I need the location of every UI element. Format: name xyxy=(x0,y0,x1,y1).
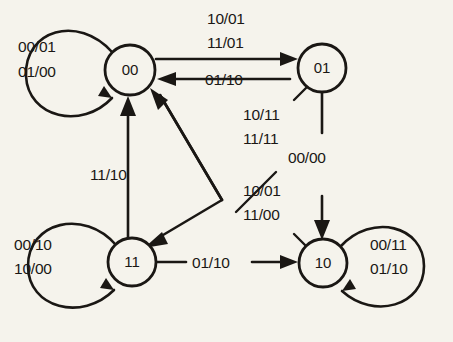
edge-label-group-11-to-00: 11/10 xyxy=(90,166,127,183)
edge-diagonal-to-11-segment xyxy=(158,200,222,238)
state-label-00: 00 xyxy=(122,61,139,78)
self-loop-00-arrowhead xyxy=(98,86,112,98)
edge-label-11-to-10-diag-line1: 10/01 xyxy=(243,182,281,199)
edge-label-00-self-line1: 00/01 xyxy=(18,38,56,55)
edge-label-01-to-00: 01/10 xyxy=(205,71,243,88)
state-node-00[interactable]: 00 xyxy=(105,45,155,95)
fsm-diagram: 00 01 11 10 00/01 01/00 10/01 11/01 01/1… xyxy=(0,0,453,342)
edge-label-11-self-line2: 10/00 xyxy=(14,260,52,277)
state-label-10: 10 xyxy=(315,254,332,271)
edge-label-group-01-to-10: 00/00 xyxy=(288,149,326,166)
edge-diagonal-arrowhead-to-00 xyxy=(150,88,168,110)
transition-00-11-diagonal-double xyxy=(144,88,222,248)
edge-label-00-to-01-line1: 10/01 xyxy=(207,10,245,27)
edge-01-to-11-stub-upper xyxy=(294,88,306,100)
edge-01-to-10-arrowhead xyxy=(314,220,330,240)
edge-11-to-10-arrowhead xyxy=(280,255,298,269)
state-node-11[interactable]: 11 xyxy=(108,238,156,286)
edge-label-01-to-11-line2: 11/11 xyxy=(243,130,279,147)
edge-label-10-self-line2: 01/10 xyxy=(370,260,408,277)
edge-label-group-00-self: 00/01 01/00 xyxy=(18,38,56,80)
state-diagram-canvas: 00 01 11 10 00/01 01/00 10/01 11/01 01/1… xyxy=(0,0,453,342)
edge-label-10-self-line1: 00/11 xyxy=(370,236,407,253)
edge-label-group-00-to-01: 10/01 11/01 xyxy=(207,10,245,51)
edge-label-11-to-10: 01/10 xyxy=(192,254,230,271)
edge-00-to-01-arrowhead xyxy=(280,52,298,66)
edge-11-to-00-arrowhead xyxy=(120,96,136,116)
self-loop-11-arrowhead xyxy=(100,278,114,290)
edge-label-group-11-self: 00/10 10/00 xyxy=(14,236,52,277)
edge-label-01-to-11-line1: 10/11 xyxy=(243,106,280,123)
state-label-01: 01 xyxy=(314,59,331,76)
state-label-11: 11 xyxy=(124,253,140,270)
edge-label-00-to-01-line2: 11/01 xyxy=(207,34,244,51)
state-node-01[interactable]: 01 xyxy=(298,44,346,92)
edge-label-11-to-00: 11/10 xyxy=(90,166,127,183)
transition-00-to-01 xyxy=(156,52,298,66)
edge-label-group-11-to-10-diagonal: 10/01 11/00 xyxy=(243,182,281,223)
edge-01-to-00-arrowhead xyxy=(157,72,176,86)
edge-label-group-01-to-00: 01/10 xyxy=(205,71,243,88)
edge-label-01-to-10: 00/00 xyxy=(288,149,326,166)
edge-label-group-11-to-10: 01/10 xyxy=(192,254,230,271)
edge-diagonal-lower-segment xyxy=(160,95,222,200)
self-loop-10-arrowhead xyxy=(342,279,356,291)
edge-label-00-self-line2: 01/00 xyxy=(18,63,56,80)
edge-label-11-to-10-diag-line2: 11/00 xyxy=(243,206,280,223)
edge-label-group-10-self: 00/11 01/10 xyxy=(370,236,408,277)
state-node-10[interactable]: 10 xyxy=(299,239,347,287)
transition-01-to-10 xyxy=(314,92,330,240)
edge-label-group-01-to-11: 10/11 11/11 xyxy=(243,106,280,147)
edge-label-11-self-line1: 00/10 xyxy=(14,236,52,253)
